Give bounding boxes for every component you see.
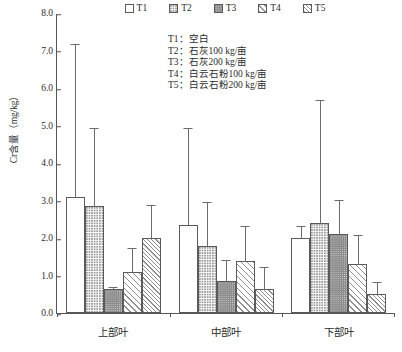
bar-t3-1	[104, 289, 123, 313]
error-bar	[94, 128, 95, 207]
bar-t4-1	[123, 272, 142, 313]
error-bar	[339, 200, 340, 236]
error-bar-cap	[296, 226, 305, 227]
error-bar-cap	[90, 128, 99, 129]
error-bar-cap	[203, 202, 212, 203]
error-bar	[75, 44, 76, 198]
bar-t2-2	[198, 246, 217, 314]
y-axis-tick: 1.0	[41, 272, 57, 282]
legend-label: T3	[226, 3, 237, 13]
error-bar	[151, 205, 152, 239]
y-axis-tick-mark	[57, 52, 61, 53]
legend-item-t3[interactable]: T3	[214, 3, 237, 13]
y-axis-tick-label: 6.0	[41, 84, 57, 94]
bar-t2-1	[85, 206, 104, 313]
legend-item-t1[interactable]: T1	[125, 3, 148, 13]
y-axis-tick-label: 1.0	[41, 272, 57, 282]
chart-root: Cr含量（mg/kg） T1T2T3T4T5 T1：空白T2：石灰100 kg/…	[0, 0, 402, 352]
x-axis-tick-label: 上部叶	[98, 324, 128, 339]
x-axis-tick-label: 中部叶	[211, 324, 241, 339]
bar-t2-3	[310, 223, 329, 313]
y-axis-tick: 6.0	[41, 84, 57, 94]
error-bar	[226, 260, 227, 283]
legend-item-t4[interactable]: T4	[258, 3, 281, 13]
error-bar	[245, 226, 246, 262]
error-bar-cap	[147, 205, 156, 206]
error-bar-cap	[71, 44, 80, 45]
legend-label: T5	[315, 3, 326, 13]
y-axis-tick-mark	[57, 202, 61, 203]
bar-t1-3	[291, 238, 310, 313]
x-axis-tick-mark	[57, 313, 58, 317]
bar-t1-1	[66, 197, 85, 313]
bar-t5-3	[367, 294, 386, 313]
y-axis-tick-label: 4.0	[41, 159, 57, 169]
y-axis-tick-mark	[57, 89, 61, 90]
bar-t3-2	[217, 281, 236, 313]
error-bar-cap	[222, 260, 231, 261]
error-bar	[207, 202, 208, 247]
error-bar-cap	[184, 128, 193, 129]
error-bar-cap	[241, 226, 250, 227]
legend-label: T4	[270, 3, 281, 13]
error-bar	[264, 267, 265, 290]
legend-swatch-t2	[169, 4, 178, 13]
x-axis-tick-label: 下部叶	[324, 324, 354, 339]
error-bar-cap	[334, 200, 343, 201]
bar-t1-2	[179, 225, 198, 313]
y-axis-tick-mark	[57, 277, 61, 278]
y-axis-tick-label: 0.0	[41, 309, 57, 319]
error-bar-cap	[353, 235, 362, 236]
error-bar	[301, 226, 302, 239]
bar-t5-2	[255, 289, 274, 313]
y-axis-tick-mark	[57, 127, 61, 128]
error-bar-cap	[109, 287, 118, 288]
bar-t4-3	[348, 264, 367, 313]
legend-swatch-t1	[125, 4, 134, 13]
legend-item-t2[interactable]: T2	[169, 3, 192, 13]
error-bar-cap	[315, 100, 324, 101]
legend-item-t5[interactable]: T5	[303, 3, 326, 13]
y-axis-tick: 2.0	[41, 234, 57, 244]
y-axis-tick: 7.0	[41, 47, 57, 57]
y-axis-tick-label: 5.0	[41, 122, 57, 132]
error-bar	[188, 128, 189, 226]
y-axis-tick-label: 7.0	[41, 47, 57, 57]
error-bar	[377, 282, 378, 295]
bar-t4-2	[236, 261, 255, 314]
legend-label: T1	[137, 3, 148, 13]
y-axis-title: Cr含量（mg/kg）	[6, 67, 20, 187]
y-axis-tick-label: 8.0	[41, 9, 57, 19]
y-axis-tick-label: 3.0	[41, 197, 57, 207]
plot-area: 0.01.02.03.04.05.06.07.08.0上部叶中部叶下部叶	[56, 14, 394, 314]
y-axis-tick: 3.0	[41, 197, 57, 207]
error-bar	[320, 100, 321, 224]
legend-swatch-t4	[258, 4, 267, 13]
error-bar	[358, 235, 359, 265]
y-axis-tick-label: 2.0	[41, 234, 57, 244]
error-bar-cap	[260, 267, 269, 268]
y-axis-tick-mark	[57, 14, 61, 15]
x-axis-tick-mark	[282, 313, 283, 317]
y-axis-tick: 4.0	[41, 159, 57, 169]
bar-t3-3	[329, 234, 348, 313]
error-bar-cap	[128, 248, 137, 249]
legend-label: T2	[181, 3, 192, 13]
y-axis-tick: 5.0	[41, 122, 57, 132]
bar-t5-1	[142, 238, 161, 313]
y-axis-tick: 8.0	[41, 9, 57, 19]
y-axis-tick-mark	[57, 239, 61, 240]
error-bar-cap	[372, 282, 381, 283]
y-axis-tick: 0.0	[41, 309, 57, 319]
x-axis-tick-mark	[394, 313, 395, 317]
legend-swatch-t3	[214, 4, 223, 13]
x-axis-tick-mark	[170, 313, 171, 317]
error-bar	[132, 248, 133, 272]
legend-swatch-t5	[303, 4, 312, 13]
y-axis-tick-mark	[57, 164, 61, 165]
